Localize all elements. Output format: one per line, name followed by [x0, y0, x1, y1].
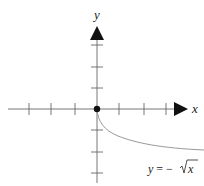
graph-canvas: x y y = − x [0, 0, 204, 186]
origin-point [94, 106, 100, 112]
x-axis-label: x [191, 101, 198, 116]
x-axis-arrow-icon [174, 102, 188, 116]
y-axis-label: y [92, 7, 100, 22]
sqrt-curve [97, 109, 204, 150]
equation-label: y = − x [147, 160, 198, 176]
equation-prefix: y = − [147, 162, 173, 176]
equation-radicand: x [187, 162, 194, 176]
y-axis-arrow-icon [90, 26, 104, 40]
